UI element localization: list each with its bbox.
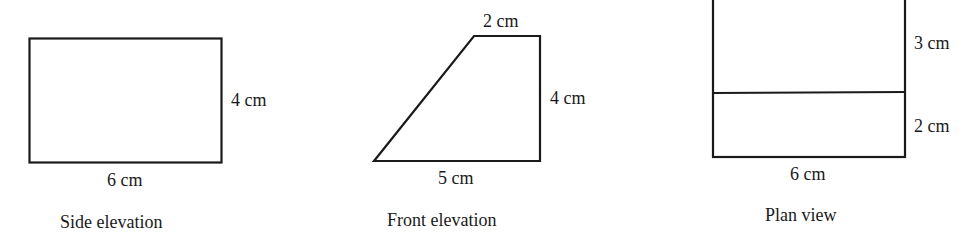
side-elevation-caption: Side elevation	[60, 212, 162, 233]
plan-view-shape	[713, 0, 905, 157]
front-bottom-label: 5 cm	[438, 168, 474, 189]
front-top-label: 2 cm	[483, 11, 519, 32]
front-elevation-shape	[374, 36, 540, 161]
side-height-label: 4 cm	[231, 90, 267, 111]
plan-view-divider	[713, 92, 905, 93]
side-width-label: 6 cm	[107, 170, 143, 191]
plan-view-caption: Plan view	[765, 205, 837, 226]
side-elevation-shape	[30, 39, 222, 163]
front-height-label: 4 cm	[550, 88, 586, 109]
plan-width-label: 6 cm	[790, 164, 826, 185]
plan-upper-label: 3 cm	[914, 33, 950, 54]
front-elevation-caption: Front elevation	[387, 210, 496, 231]
plan-lower-label: 2 cm	[914, 116, 950, 137]
